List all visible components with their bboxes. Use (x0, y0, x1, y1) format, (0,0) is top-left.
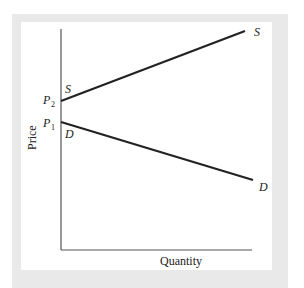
supply-demand-chart: S S D D P 2 P 1 Price Quantity (0, 0, 304, 288)
supply-end-label: S (254, 25, 260, 39)
p2-subscript: 2 (51, 100, 55, 109)
supply-start-label: S (65, 82, 71, 96)
p1-subscript: 1 (51, 123, 55, 132)
demand-start-label: D (64, 127, 74, 141)
supply-curve (61, 31, 245, 101)
y-axis-title: Price (25, 125, 39, 150)
p1-label: P (42, 116, 51, 130)
demand-end-label: D (258, 180, 268, 194)
x-axis-title: Quantity (160, 254, 202, 268)
p2-label: P (42, 93, 51, 107)
demand-curve (61, 122, 253, 180)
